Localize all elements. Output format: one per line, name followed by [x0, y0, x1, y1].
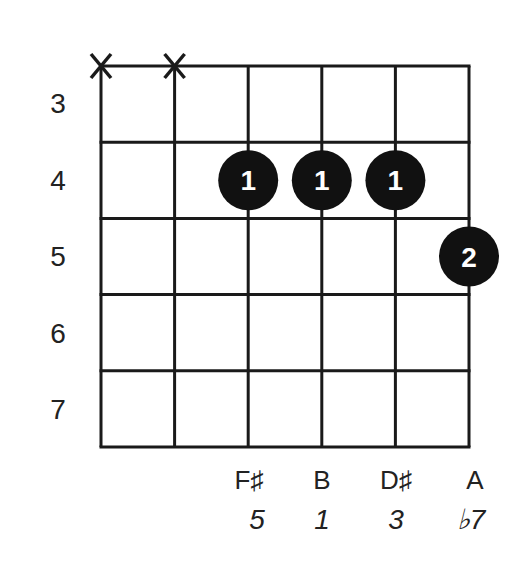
- finger-number: 2: [461, 242, 477, 273]
- fret-label-7: 7: [38, 396, 78, 424]
- fret-label-3: 3: [38, 90, 78, 118]
- interval-label-string-4: 1: [297, 506, 347, 534]
- interval-label-string-6: ♭7: [446, 506, 496, 534]
- finger-number: 1: [388, 165, 404, 196]
- interval-label-string-3: 5: [232, 506, 282, 534]
- note-label-string-4: B: [302, 467, 342, 493]
- note-label-string-3: F♯: [229, 467, 269, 493]
- finger-number: 1: [314, 165, 330, 196]
- fret-label-4: 4: [38, 167, 78, 195]
- fret-label-6: 6: [38, 320, 78, 348]
- chord-diagram: 1112 3 4 5 6 7 F♯ B D♯ A 5 1 3 ♭7: [0, 0, 527, 564]
- note-label-string-5: D♯: [376, 467, 416, 493]
- fret-label-5: 5: [38, 243, 78, 271]
- note-label-string-6: A: [455, 467, 495, 493]
- interval-label-string-5: 3: [371, 506, 421, 534]
- finger-number: 1: [240, 165, 256, 196]
